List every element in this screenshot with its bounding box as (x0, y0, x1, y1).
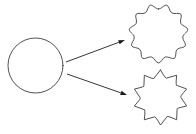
spiked-star-shape (134, 70, 186, 125)
shape-layer (8, 5, 188, 125)
arrow-to-scalloped-line (66, 42, 119, 62)
shape-diagram (0, 0, 196, 134)
arrow-layer (66, 40, 127, 95)
circle-shape (8, 38, 63, 93)
diagram-canvas (0, 0, 196, 134)
arrow-to-spiked-head (120, 91, 127, 95)
arrow-to-scalloped-head (118, 40, 125, 44)
arrow-to-spiked-line (67, 74, 121, 93)
scalloped-cloud-shape (129, 5, 187, 63)
